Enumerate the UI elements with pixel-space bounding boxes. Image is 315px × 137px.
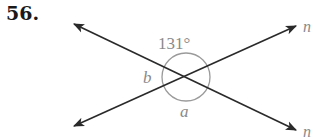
angle-131-label: 131° (158, 34, 190, 53)
angle-b-label: b (143, 68, 152, 87)
intersecting-lines-diagram: 131° b a n n (0, 0, 315, 137)
angle-a-label: a (180, 102, 189, 121)
line-label-bottom: n (303, 123, 311, 137)
line-label-top: n (303, 18, 311, 35)
